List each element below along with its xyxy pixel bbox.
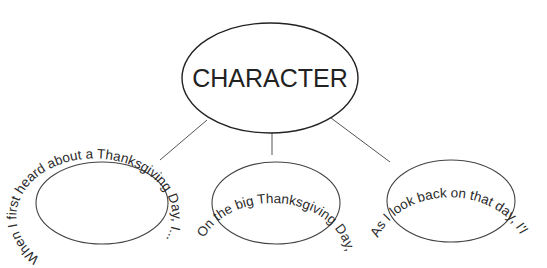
center-label: CHARACTER	[192, 64, 348, 92]
character-web-diagram: CHARACTER When I first heard about a Tha…	[0, 0, 547, 268]
connector-left	[160, 120, 207, 160]
center-node: CHARACTER	[182, 23, 358, 133]
prompt-node-1: When I first heard about a Thanksgiving …	[4, 146, 184, 267]
connector-right	[331, 118, 390, 162]
